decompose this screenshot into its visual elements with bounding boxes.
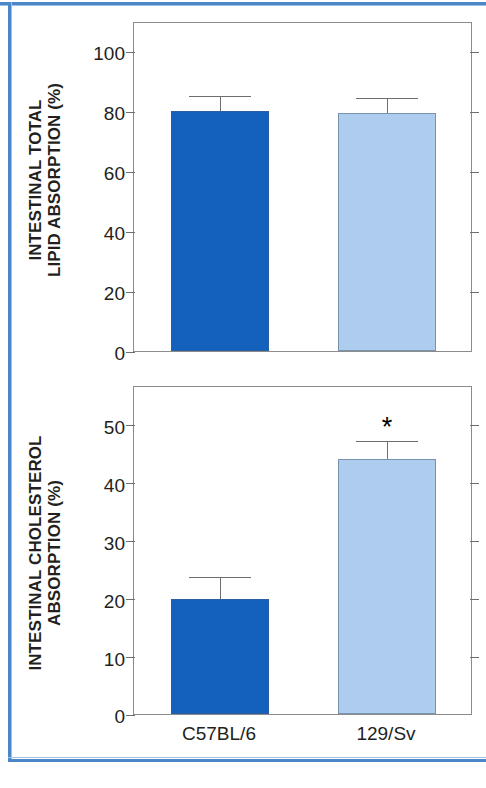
error-bar-c57bl6-cholesterol	[171, 577, 269, 599]
y-tick-20	[126, 292, 135, 293]
error-bar-cap	[189, 96, 251, 97]
error-bar-stem	[387, 98, 388, 113]
y-tick-label: 0	[114, 707, 125, 726]
bar-129sv-lipid[interactable]	[338, 113, 436, 351]
y-tick-label: 50	[104, 418, 125, 437]
x-axis-label-c57bl6: C57BL/6	[170, 723, 268, 745]
bar-129sv-cholesterol[interactable]	[338, 459, 436, 714]
y-tick-label: 0	[114, 344, 125, 363]
y-tick-right-20	[470, 292, 479, 293]
y-tick-right-100	[470, 52, 479, 53]
y-tick-right-50	[470, 425, 479, 426]
y-tick-right-80	[470, 112, 479, 113]
x-axis-labels: C57BL/6 129/Sv	[133, 723, 472, 753]
y-axis-tick-labels-bottom: 0 10 20 30 40 50	[0, 378, 125, 788]
y-tick-label: 10	[104, 650, 125, 669]
y-tick-label: 30	[104, 534, 125, 553]
error-bar-129sv-lipid	[338, 98, 436, 113]
y-tick-30	[126, 541, 135, 542]
y-tick-40	[126, 232, 135, 233]
y-tick-label: 20	[104, 284, 125, 303]
x-axis-label-129sv: 129/Sv	[337, 723, 435, 745]
y-tick-10	[126, 657, 135, 658]
y-tick-label: 60	[104, 164, 125, 183]
bar-c57bl6-lipid[interactable]	[171, 111, 269, 351]
y-tick-right-40	[470, 232, 479, 233]
y-axis-tick-labels-top: 0 20 40 60 80 100	[0, 0, 125, 378]
y-tick-label: 80	[104, 104, 125, 123]
error-bar-cap	[189, 577, 251, 578]
y-tick-60	[126, 172, 135, 173]
y-tick-0	[126, 715, 135, 716]
y-tick-right-60	[470, 172, 479, 173]
plot-inner-top	[134, 23, 471, 351]
y-tick-50	[126, 425, 135, 426]
y-tick-0	[126, 352, 135, 353]
y-tick-right-10	[470, 657, 479, 658]
plot-inner-bottom: *	[134, 387, 471, 714]
y-tick-20	[126, 599, 135, 600]
error-bar-cap	[356, 98, 418, 99]
y-tick-label: 100	[93, 44, 125, 63]
y-tick-100	[126, 52, 135, 53]
bar-c57bl6-cholesterol[interactable]	[171, 599, 269, 714]
y-tick-label: 20	[104, 592, 125, 611]
plot-area-bottom: *	[133, 386, 472, 715]
error-bar-129sv-cholesterol	[338, 441, 436, 459]
y-tick-80	[126, 112, 135, 113]
chart-panel-bottom: INTESTINAL CHOLESTEROL ABSORPTION (%) 0 …	[0, 378, 486, 788]
plot-area-top	[133, 22, 472, 352]
y-tick-right-20	[470, 599, 479, 600]
error-bar-stem	[220, 96, 221, 111]
y-tick-right-30	[470, 541, 479, 542]
chart-panel-top: INTESTINAL TOTAL LIPID ABSORPTION (%) 0 …	[0, 0, 486, 378]
y-tick-label: 40	[104, 476, 125, 495]
error-bar-c57bl6-lipid	[171, 96, 269, 111]
y-tick-right-40	[470, 483, 479, 484]
error-bar-stem	[220, 577, 221, 599]
y-tick-40	[126, 483, 135, 484]
y-tick-label: 40	[104, 224, 125, 243]
error-bar-stem	[387, 441, 388, 459]
significance-asterisk: *	[367, 414, 407, 441]
